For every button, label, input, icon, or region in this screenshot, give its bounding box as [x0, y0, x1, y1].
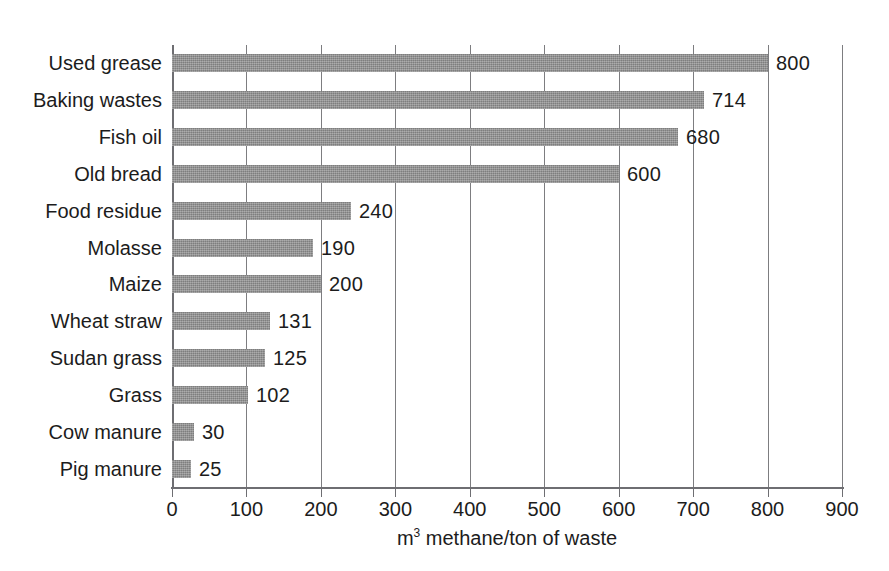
tick-800: [768, 489, 769, 497]
bar-row: 125: [172, 349, 842, 367]
category-label-food-residue: Food residue: [0, 202, 162, 220]
tick-100: [246, 489, 247, 497]
gridline-100: [246, 45, 247, 487]
tick-label-800: 800: [733, 499, 803, 519]
category-label-sudan-grass: Sudan grass: [0, 349, 162, 367]
bar-sudan-grass: [172, 349, 265, 367]
bar-food-residue: [172, 202, 351, 220]
bar-row: 25: [172, 460, 842, 478]
category-label-wheat-straw: Wheat straw: [0, 312, 162, 330]
gridline-200: [321, 45, 322, 487]
tick-500: [544, 489, 545, 497]
bar-maize: [172, 275, 321, 293]
gridline-300: [395, 45, 396, 487]
tick-200: [321, 489, 322, 497]
bar-value-label: 714: [712, 90, 746, 110]
bar-value-label: 190: [321, 238, 355, 258]
bar-pig-manure: [172, 460, 191, 478]
gridline-0: [172, 45, 174, 487]
bar-row: 131: [172, 312, 842, 330]
bar-row: 800: [172, 54, 842, 72]
category-label-grass: Grass: [0, 386, 162, 404]
bar-cow-manure: [172, 423, 194, 441]
tick-label-500: 500: [509, 499, 579, 519]
bar-row: 240: [172, 202, 842, 220]
tick-0: [172, 489, 173, 497]
x-axis-title: m3 methane/ton of waste: [172, 528, 842, 548]
tick-700: [693, 489, 694, 497]
bar-value-label: 200: [329, 274, 363, 294]
bar-old-bread: [172, 165, 619, 183]
tick-label-200: 200: [286, 499, 356, 519]
bar-value-label: 600: [627, 164, 661, 184]
bar-value-label: 131: [278, 311, 312, 331]
bar-row: 190: [172, 239, 842, 257]
tick-label-700: 700: [658, 499, 728, 519]
category-label-baking-wastes: Baking wastes: [0, 91, 162, 109]
bar-chart: 0100200300400500600700800900 80071468060…: [0, 0, 889, 571]
category-label-molasse: Molasse: [0, 239, 162, 257]
bar-row: 30: [172, 423, 842, 441]
bar-value-label: 25: [199, 459, 222, 479]
x-axis-title-prefix: m: [397, 527, 414, 549]
bar-baking-wastes: [172, 91, 704, 109]
category-label-used-grease: Used grease: [0, 54, 162, 72]
bar-molasse: [172, 239, 313, 257]
bar-value-label: 30: [202, 422, 225, 442]
category-label-fish-oil: Fish oil: [0, 128, 162, 146]
bar-value-label: 240: [359, 201, 393, 221]
bar-row: 680: [172, 128, 842, 146]
bar-row: 102: [172, 386, 842, 404]
category-label-maize: Maize: [0, 275, 162, 293]
tick-400: [470, 489, 471, 497]
tick-label-0: 0: [137, 499, 207, 519]
gridline-400: [470, 45, 471, 487]
gridline-800: [768, 45, 769, 487]
bar-row: 200: [172, 275, 842, 293]
tick-600: [619, 489, 620, 497]
bar-grass: [172, 386, 248, 404]
tick-300: [395, 489, 396, 497]
category-label-cow-manure: Cow manure: [0, 423, 162, 441]
tick-label-100: 100: [211, 499, 281, 519]
tick-label-600: 600: [584, 499, 654, 519]
bar-value-label: 680: [686, 127, 720, 147]
bar-used-grease: [172, 54, 768, 72]
gridline-900: [842, 45, 843, 487]
category-label-old-bread: Old bread: [0, 165, 162, 183]
bar-row: 600: [172, 165, 842, 183]
bar-value-label: 102: [256, 385, 290, 405]
gridline-600: [619, 45, 620, 487]
bar-row: 714: [172, 91, 842, 109]
bar-value-label: 125: [273, 348, 307, 368]
x-axis-title-rest: methane/ton of waste: [420, 527, 617, 549]
plot-area: [172, 45, 842, 487]
gridline-500: [544, 45, 545, 487]
tick-900: [842, 489, 843, 497]
bar-wheat-straw: [172, 312, 270, 330]
tick-label-300: 300: [360, 499, 430, 519]
gridline-700: [693, 45, 694, 487]
x-axis-line: [171, 487, 844, 489]
tick-label-900: 900: [807, 499, 877, 519]
bar-value-label: 800: [776, 53, 810, 73]
category-label-pig-manure: Pig manure: [0, 460, 162, 478]
tick-label-400: 400: [435, 499, 505, 519]
bar-fish-oil: [172, 128, 678, 146]
